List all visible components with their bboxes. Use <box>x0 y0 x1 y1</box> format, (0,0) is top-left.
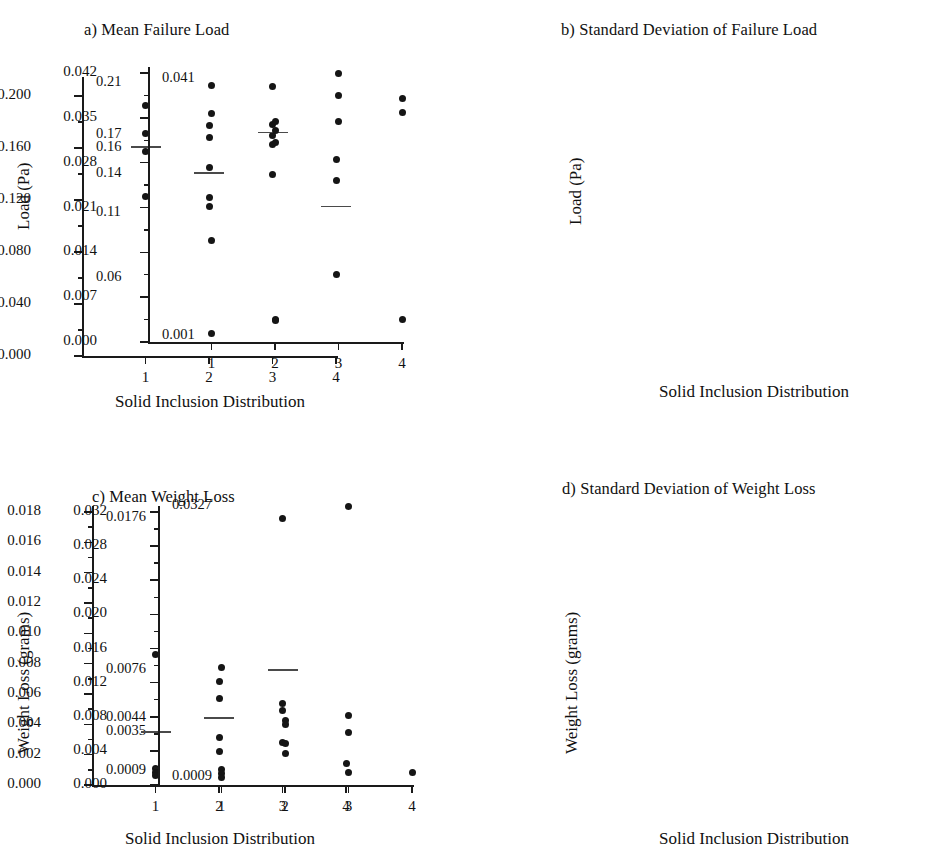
y-tick-minor <box>144 274 149 275</box>
y-tick-label: 0.032 <box>49 502 107 519</box>
y-tick-major <box>150 648 159 650</box>
data-point <box>335 70 342 77</box>
x-tick <box>401 343 403 350</box>
y-tick-major <box>74 147 83 149</box>
y-tick-minor <box>144 319 149 320</box>
x-tick-label: 4 <box>392 798 432 815</box>
y-tick-label: 0.120 <box>0 190 31 207</box>
y-tick-major <box>140 117 149 119</box>
panel-d: d) Standard Deviation of Weight Loss Wei… <box>466 434 932 867</box>
data-point <box>272 317 279 324</box>
y-tick-major <box>140 207 149 209</box>
y-tick-major <box>140 341 149 343</box>
data-point <box>333 177 340 184</box>
x-tick <box>218 786 220 793</box>
y-tick-label: 0.000 <box>49 775 107 792</box>
value-annotation: 0.0076 <box>106 660 146 677</box>
y-tick-label: 0.200 <box>0 86 31 103</box>
panel-d-plot: 0.0000.0040.0080.0120.0160.0200.0240.028… <box>466 434 932 867</box>
data-point <box>218 664 225 671</box>
y-tick-major <box>150 784 159 786</box>
y-tick-label: 0.014 <box>0 563 41 580</box>
data-point <box>399 95 406 102</box>
y-tick-label: 0.010 <box>0 623 41 640</box>
x-tick-label: 1 <box>126 369 166 386</box>
y-tick-minor <box>144 229 149 230</box>
y-tick-minor <box>78 329 83 330</box>
data-point <box>333 156 340 163</box>
y-tick-major <box>140 162 149 164</box>
y-tick-minor <box>154 562 159 563</box>
data-point <box>399 316 406 323</box>
y-tick-label: 0.002 <box>0 745 41 762</box>
y-tick-label: 0.000 <box>0 346 31 363</box>
x-tick <box>284 786 286 793</box>
y-tick-minor <box>154 733 159 734</box>
value-annotation: 0.0009 <box>172 767 212 784</box>
x-tick <box>348 786 350 793</box>
y-tick-minor <box>78 277 83 278</box>
data-point <box>282 721 289 728</box>
data-point <box>279 700 286 707</box>
y-tick-minor <box>144 95 149 96</box>
x-tick <box>411 786 413 793</box>
data-point <box>409 769 416 776</box>
x-tick <box>338 343 340 350</box>
data-point <box>272 127 279 134</box>
y-tick-minor <box>154 699 159 700</box>
y-tick-major <box>84 693 93 695</box>
value-annotation: 0.0176 <box>106 508 146 525</box>
y-tick-label: 0.008 <box>49 707 107 724</box>
data-point <box>282 740 289 747</box>
y-tick-label: 0.006 <box>0 684 41 701</box>
value-annotation: 0.001 <box>162 326 195 343</box>
value-annotation: 0.0327 <box>172 496 212 513</box>
y-tick-label: 0.000 <box>39 332 97 349</box>
value-annotation: 0.0009 <box>106 761 146 778</box>
x-tick-label: 2 <box>265 798 305 815</box>
y-tick-major <box>140 252 149 254</box>
data-point <box>279 515 286 522</box>
y-tick-label: 0.007 <box>39 287 97 304</box>
y-tick-label: 0.016 <box>0 532 41 549</box>
data-point <box>216 734 223 741</box>
data-point <box>335 92 342 99</box>
value-annotation: 0.11 <box>96 203 121 220</box>
y-tick-major <box>150 579 159 581</box>
y-tick-label: 0.160 <box>0 138 31 155</box>
panel-b-plot: 0.0000.0070.0140.0210.0280.0350.04212340… <box>466 0 932 434</box>
y-tick-minor <box>88 769 93 770</box>
y-tick-label: 0.080 <box>0 242 31 259</box>
y-tick-major <box>150 545 159 547</box>
data-point <box>216 748 223 755</box>
value-annotation: 0.06 <box>96 268 121 285</box>
data-point <box>333 271 340 278</box>
data-point <box>208 330 215 337</box>
y-axis-line <box>158 506 160 787</box>
data-point <box>345 503 352 510</box>
mean-marker <box>268 669 298 671</box>
y-tick-minor <box>144 184 149 185</box>
x-tick <box>155 786 157 793</box>
value-annotation: 0.041 <box>162 69 195 86</box>
y-tick-minor <box>88 526 93 527</box>
y-tick-label: 0.012 <box>49 673 107 690</box>
value-annotation: 0.14 <box>96 164 121 181</box>
y-tick-label: 0.040 <box>0 294 31 311</box>
y-tick-minor <box>78 225 83 226</box>
y-tick-major <box>140 296 149 298</box>
y-tick-label: 0.021 <box>39 198 97 215</box>
y-tick-minor <box>88 587 93 588</box>
y-tick-label: 0.014 <box>39 242 97 259</box>
x-tick-label: 3 <box>319 355 359 372</box>
mean-marker <box>321 206 351 208</box>
x-tick-label: 1 <box>202 798 242 815</box>
data-point <box>208 110 215 117</box>
data-point <box>272 139 279 146</box>
y-tick-minor <box>78 173 83 174</box>
y-tick-label: 0.004 <box>0 714 41 731</box>
y-tick-label: 0.035 <box>39 108 97 125</box>
x-tick-label: 3 <box>329 798 369 815</box>
data-point <box>272 118 279 125</box>
x-tick <box>211 343 213 350</box>
